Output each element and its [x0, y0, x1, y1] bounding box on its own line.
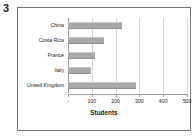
category-axis-labels: China Costa Rica France Italy United Kin… [18, 18, 67, 93]
tick-label-300: 300 [135, 98, 144, 104]
tick-mark-500 [187, 94, 188, 97]
bar-united-kingdom [68, 82, 136, 89]
tick-label-200: 200 [111, 98, 120, 104]
tick-label-0: - [67, 98, 69, 104]
figure-number-label: 3 [3, 2, 9, 14]
bar-china [68, 22, 122, 29]
x-axis-line [68, 94, 187, 95]
bar-series [68, 18, 187, 93]
tick-label-400: 400 [159, 98, 168, 104]
tick-mark-400 [163, 94, 164, 97]
category-label-costa-rica: Costa Rica [18, 37, 67, 44]
category-label-france: France [18, 52, 67, 59]
tick-mark-200 [116, 94, 117, 97]
bar-row [68, 22, 187, 29]
chart-frame: China Costa Rica France Italy United Kin… [17, 7, 191, 131]
bar-france [68, 52, 95, 59]
category-label-china: China [18, 22, 67, 29]
bar-costa-rica [68, 37, 104, 44]
bar-italy [68, 67, 91, 74]
tick-label-100: 100 [87, 98, 96, 104]
category-label-united-kingdom: United Kingdom [18, 82, 67, 89]
plot-area [68, 18, 187, 93]
bar-row [68, 82, 187, 89]
bar-row [68, 52, 187, 59]
bar-row [68, 37, 187, 44]
tick-label-500: 500 [183, 98, 192, 104]
x-axis-title: Students [18, 109, 190, 116]
tick-mark-100 [92, 94, 93, 97]
tick-mark-0 [68, 94, 69, 97]
gridline-500 [187, 18, 188, 93]
bar-row [68, 67, 187, 74]
tick-mark-300 [139, 94, 140, 97]
category-label-italy: Italy [18, 67, 67, 74]
